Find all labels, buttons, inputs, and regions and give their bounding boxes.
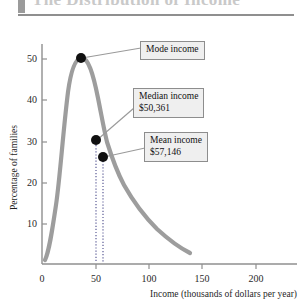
y-tick-label-40: 40 [27, 94, 37, 105]
y-tick-label-20: 20 [27, 177, 37, 188]
y-axis-title: Percentage of families [9, 125, 19, 210]
x-tick-label-100: 100 [142, 273, 157, 284]
x-tick-label-150: 150 [195, 273, 210, 284]
mode-leader-line [82, 48, 141, 58]
mean-callout-value: $57,146 [150, 147, 202, 159]
mean-marker [98, 152, 108, 162]
mode-marker [76, 53, 86, 63]
figure: The Distribution of Income Percentage of… [0, 0, 306, 307]
x-tick-label-50: 50 [91, 273, 101, 284]
y-tick-label-10: 10 [27, 218, 37, 229]
mean-callout-label: Mean income [150, 135, 202, 145]
x-tick-label-200: 200 [249, 273, 264, 284]
median-callout-value: $50,361 [139, 103, 198, 115]
y-tick-label-50: 50 [27, 53, 37, 64]
mode-callout-label: Mode income [146, 44, 199, 54]
x-axis-title: Income (thousands of dollars per year) [150, 289, 297, 300]
median-marker [91, 135, 101, 145]
x-axis-ticks: 0 50 100 150 200 [40, 264, 264, 284]
mean-callout: Mean income $57,146 [144, 132, 208, 162]
y-axis-ticks: 50 40 30 20 10 [27, 53, 47, 229]
mode-callout: Mode income [140, 41, 205, 60]
median-callout: Median income $50,361 [133, 88, 204, 118]
y-tick-label-30: 30 [27, 136, 37, 147]
x-tick-label-0: 0 [40, 273, 45, 284]
median-callout-label: Median income [139, 91, 198, 101]
